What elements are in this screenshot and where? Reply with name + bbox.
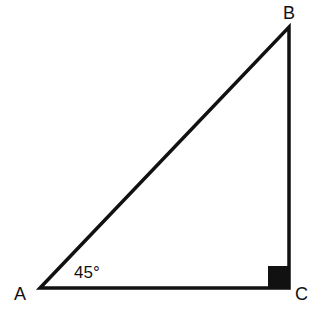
vertex-label-a: A	[14, 284, 26, 304]
triangle-abc	[40, 27, 289, 288]
angle-label-a: 45°	[74, 263, 100, 282]
triangle-diagram: A B C 45°	[0, 0, 324, 321]
right-angle-marker	[268, 266, 289, 288]
vertex-label-c: C	[295, 284, 308, 304]
vertex-label-b: B	[283, 3, 295, 23]
